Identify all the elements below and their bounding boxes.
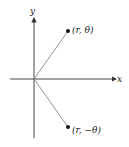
y-axis-label: y xyxy=(29,6,36,16)
polar-symmetry-diagram: y x (r, θ) (r, −θ) xyxy=(0,0,129,147)
point-label-r-theta: (r, θ) xyxy=(72,25,94,35)
x-axis-label: x xyxy=(117,74,122,84)
point-r-neg-theta xyxy=(66,125,70,129)
point-label-r-neg-theta: (r, −θ) xyxy=(72,125,102,135)
ray-theta xyxy=(34,31,68,79)
ray-neg-theta xyxy=(34,79,68,127)
point-r-theta xyxy=(66,29,70,33)
